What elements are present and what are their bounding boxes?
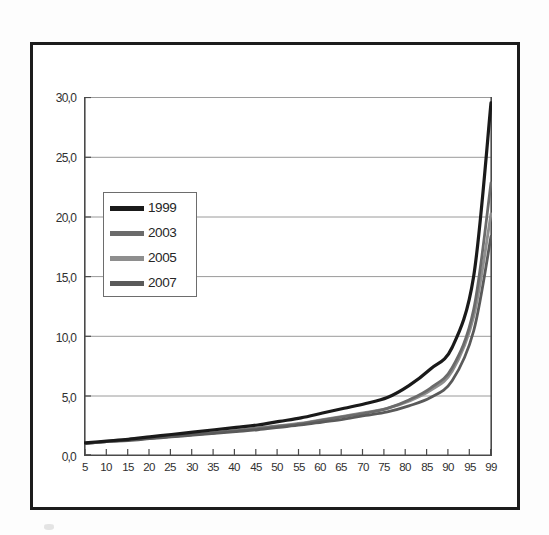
x-axis-tick-label: 35 (207, 461, 219, 473)
x-axis-tick-label: 55 (293, 461, 305, 473)
legend-swatch-2005 (110, 256, 144, 261)
y-axis-tick-label: 10,0 (30, 331, 76, 345)
legend-item-2007: 2007 (110, 270, 196, 296)
legend-label-1999: 1999 (148, 201, 176, 215)
x-axis-tick-label: 30 (186, 461, 198, 473)
x-axis-tick-label: 90 (442, 461, 454, 473)
legend-label-2005: 2005 (148, 251, 176, 265)
x-axis-tick-label: 80 (399, 461, 411, 473)
x-axis-tick-label: 99 (485, 461, 497, 473)
y-axis-tick-label: 0,0 (30, 450, 76, 464)
x-axis-tick-label: 5 (82, 461, 88, 473)
legend-item-2003: 2003 (110, 220, 196, 246)
legend-item-2005: 2005 (110, 245, 196, 271)
y-axis-tick-label: 15,0 (30, 271, 76, 285)
y-tick-marks (85, 98, 91, 455)
legend-swatch-1999 (110, 206, 144, 211)
x-axis-tick-label: 65 (335, 461, 347, 473)
x-axis-tick-label: 10 (100, 461, 112, 473)
x-axis-tick-label: 15 (122, 461, 134, 473)
y-axis-tick-label: 30,0 (30, 91, 76, 105)
y-axis-tick-label: 25,0 (30, 151, 76, 165)
x-axis-tick-label: 25 (164, 461, 176, 473)
x-axis-tick-label: 40 (228, 461, 240, 473)
chart-legend: 1999 2003 2005 2007 (103, 192, 197, 297)
scanned-page: Com Contribuição para a Previdência Soci… (0, 0, 549, 535)
x-tick-marks (85, 449, 491, 455)
x-axis-tick-label: 20 (143, 461, 155, 473)
legend-label-2003: 2003 (148, 226, 176, 240)
legend-item-1999: 1999 (110, 195, 196, 221)
x-axis-tick-label: 45 (250, 461, 262, 473)
x-axis-tick-label: 85 (421, 461, 433, 473)
legend-swatch-2007 (110, 281, 144, 286)
y-axis-tick-label: 5,0 (30, 391, 76, 405)
x-axis-tick-label: 60 (314, 461, 326, 473)
x-axis-tick-label: 75 (378, 461, 390, 473)
scan-artifact (44, 524, 54, 530)
x-axis-tick-label: 50 (271, 461, 283, 473)
x-axis-tick-label: 70 (357, 461, 369, 473)
legend-label-2007: 2007 (148, 276, 176, 290)
y-axis-tick-label: 20,0 (30, 211, 76, 225)
legend-swatch-2003 (110, 231, 144, 236)
x-axis-tick-label: 95 (464, 461, 476, 473)
